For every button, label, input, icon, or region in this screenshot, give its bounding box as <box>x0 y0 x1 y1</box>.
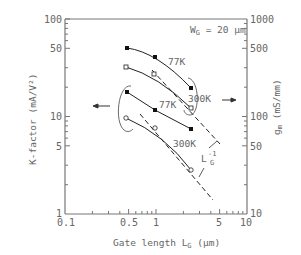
label-lower-300k: 300K <box>173 138 196 149</box>
x-axis-ticks <box>92 209 242 214</box>
chart: 100 50 10 5 1 1000 500 100 50 10 0.1 0.5… <box>0 0 301 255</box>
x-axis-labels: 0.1 0.5 1 5 10 <box>57 217 252 228</box>
left-axis-ticks <box>65 19 70 185</box>
svg-text:L: L <box>201 153 207 164</box>
y-left-tick-10: 10 <box>50 111 62 122</box>
y-left-tick-5: 5 <box>56 141 62 152</box>
gate-width-annotation: WG = 20 μm <box>190 24 246 37</box>
x-tick-0.1: 0.1 <box>57 217 75 228</box>
markers-gm-77k <box>125 46 193 90</box>
left-axis-labels: 100 50 10 5 1 <box>44 14 62 219</box>
y-right-tick-500: 500 <box>250 43 268 54</box>
right-axis-ticks <box>242 24 247 185</box>
y-right-tick-50: 50 <box>250 141 262 152</box>
right-arrow-icon <box>222 98 236 102</box>
x-tick-5: 5 <box>216 217 222 228</box>
y-left-axis-title: K-factor (mA/V²) <box>27 73 38 165</box>
y-right-tick-100: 100 <box>250 111 268 122</box>
x-tick-0.5: 0.5 <box>120 217 138 228</box>
x-tick-1: 1 <box>153 217 159 228</box>
x-tick-10: 10 <box>240 217 252 228</box>
y-left-tick-100: 100 <box>44 14 62 25</box>
plot-frame <box>65 19 247 214</box>
left-arrow-icon <box>93 104 110 108</box>
label-upper-77k: 77K <box>168 56 185 67</box>
label-lower-77k: 77K <box>159 99 176 110</box>
label-upper-300k: 300K <box>188 93 211 104</box>
y-right-tick-1000: 1000 <box>250 14 274 25</box>
slope-annotation: L -1 G <box>199 141 217 177</box>
y-right-axis-title: gm (mS/mm) <box>271 79 284 135</box>
x-axis-title: Gate length LG (μm) <box>113 237 220 250</box>
svg-text:-1: -1 <box>208 150 216 158</box>
y-left-tick-50: 50 <box>50 43 62 54</box>
svg-text:G: G <box>210 159 214 167</box>
